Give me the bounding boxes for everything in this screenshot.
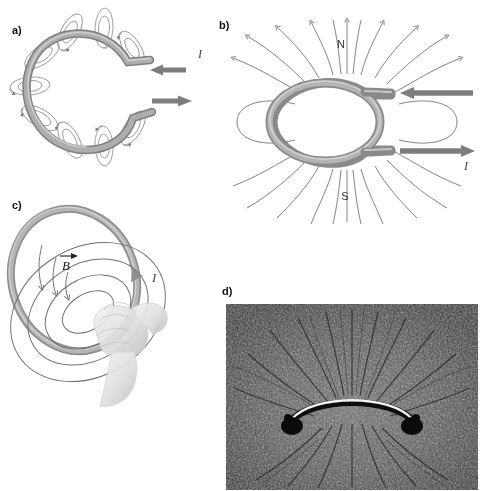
current-arrows-a (150, 65, 192, 107)
current-arrows-b (400, 87, 475, 157)
current-in-arrow-a (150, 65, 186, 76)
panel-d (215, 275, 490, 491)
iron-filings-photograph (226, 304, 478, 490)
hand-illustration-c (94, 303, 167, 407)
panel-a: I (0, 0, 215, 190)
current-out-arrow-b (400, 145, 475, 157)
panel-b-drawing: N S I (215, 0, 490, 230)
b-field-letter-c: B (62, 258, 70, 273)
figure-magnetic-field-of-current-loop: a) (0, 0, 490, 491)
panel-b: N S I (215, 0, 490, 230)
wire-loop-b (270, 81, 391, 163)
current-label-b: I (463, 159, 469, 173)
photo-content (226, 304, 478, 490)
south-pole-label-b: S (341, 190, 348, 202)
panel-c: B I (0, 190, 215, 440)
current-out-arrow-a (152, 96, 192, 107)
current-in-arrow-b (400, 87, 473, 99)
b-field-label-c: B (60, 253, 78, 273)
panel-a-drawing: I (0, 0, 215, 190)
current-label-a: I (197, 47, 203, 61)
current-label-c: I (151, 270, 157, 285)
north-pole-label-b: N (337, 38, 345, 50)
panel-c-drawing: B I (0, 190, 215, 440)
